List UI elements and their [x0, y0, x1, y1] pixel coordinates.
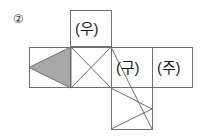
geometry-figure: ② (우) (구) (주): [0, 0, 207, 138]
bottom-face-chevron: [111, 88, 152, 129]
top-face-label: (우): [75, 21, 98, 36]
outer-right-face-label: (주): [157, 60, 180, 75]
bottom-face-outline: [112, 88, 153, 130]
shaded-kite-shape: [29, 47, 71, 88]
inner-right-face-label: (구): [116, 60, 139, 75]
